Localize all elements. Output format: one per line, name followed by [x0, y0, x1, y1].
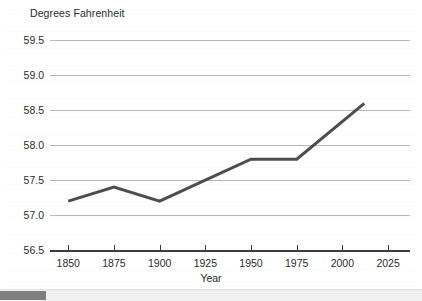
x-tick-label: 2000: [331, 257, 354, 269]
x-tick-label: 1875: [102, 257, 125, 269]
y-tick-label: 57.0: [24, 209, 44, 221]
gridline: [50, 250, 410, 252]
y-axis-title: Degrees Fahrenheit: [30, 7, 125, 19]
y-tick-label: 58.5: [24, 104, 44, 116]
series-line-global-temperature: [50, 30, 410, 250]
y-tick-label: 59.0: [24, 69, 44, 81]
x-axis-title: Year: [0, 272, 422, 284]
y-tick-label: 56.5: [24, 244, 44, 256]
x-tick-label: 1850: [57, 257, 80, 269]
horizontal-scrollbar[interactable]: [0, 289, 422, 301]
x-tick-label: 1900: [148, 257, 171, 269]
y-tick-label: 57.5: [24, 174, 44, 186]
x-tick-label: 2025: [376, 257, 399, 269]
plot-area: 56.557.057.558.058.559.059.5 18501875190…: [50, 30, 410, 250]
x-tick-label: 1950: [239, 257, 262, 269]
x-tick-label: 1975: [285, 257, 308, 269]
scrollbar-thumb[interactable]: [0, 291, 46, 300]
y-tick-label: 59.5: [24, 34, 44, 46]
line-chart: Degrees Fahrenheit 56.557.057.558.058.55…: [0, 0, 422, 289]
y-tick-label: 58.0: [24, 139, 44, 151]
x-tick-label: 1925: [194, 257, 217, 269]
